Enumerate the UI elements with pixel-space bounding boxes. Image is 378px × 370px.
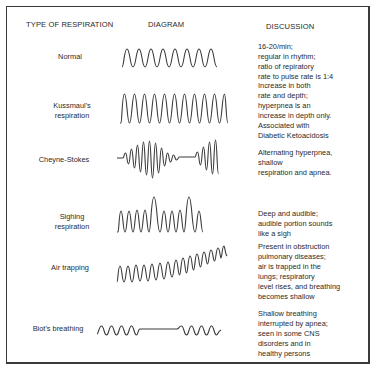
- discussion-cheyne-stokes: Alternating hyperpnea, shallow respirati…: [258, 148, 370, 178]
- discussion-air-trapping: Present in obstruction pulmonary disease…: [258, 242, 370, 302]
- normal-wave-diagram: [122, 46, 218, 70]
- type-sighing: Sighing respiration: [44, 212, 100, 232]
- discussion-biots: Shallow breathing interrupted by apnea; …: [258, 309, 370, 359]
- air-trapping-wave-diagram: [117, 244, 229, 284]
- discussion-kussmaul: Increase in both rate and depth; hyperpn…: [258, 81, 370, 141]
- biots-wave-diagram: [97, 323, 243, 337]
- kussmaul-wave-diagram: [120, 92, 228, 126]
- sighing-wave-diagram: [117, 195, 219, 235]
- type-normal: Normal: [40, 52, 100, 62]
- header-discussion: DISCUSSION: [266, 22, 314, 31]
- discussion-normal: 16-20/min; regular in rhythm; ratio of r…: [258, 42, 370, 82]
- header-type: TYPE OF RESPIRATION: [26, 20, 113, 29]
- type-biots: Biot's breathing: [26, 324, 90, 334]
- type-cheyne-stokes: Cheyne-Stokes: [32, 155, 96, 165]
- discussion-sighing: Deep and audible; audible portion sounds…: [258, 209, 370, 239]
- type-air-trapping: Air trapping: [40, 263, 100, 273]
- type-kussmaul: Kussmaul's respiration: [42, 101, 102, 121]
- cheyne-stokes-wave-diagram: [117, 138, 227, 180]
- header-diagram: DIAGRAM: [148, 20, 184, 29]
